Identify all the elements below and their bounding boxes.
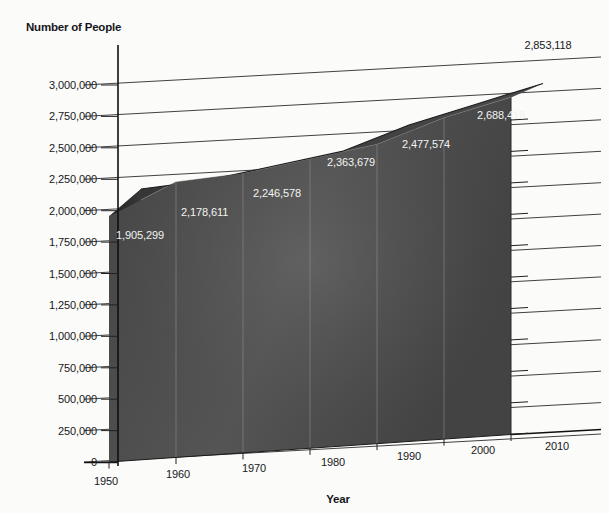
x-tick-label: 2000 [471, 444, 495, 456]
x-tick-label: 1970 [242, 462, 266, 474]
y-axis-title: Number of People [26, 21, 121, 33]
data-label-2010: 2,853,118 [524, 39, 571, 51]
chart-page: 0 250,000 500,000 750,000 1,000,000 1,25… [0, 0, 609, 513]
y-tick-label: 1,000,000 [49, 330, 97, 342]
y-tick-label: 1,500,000 [49, 268, 97, 280]
y-tick-label: 750,000 [58, 362, 97, 374]
y-tick-label: 3,000,000 [49, 79, 97, 91]
data-label-1950: 1,905,299 [116, 229, 164, 241]
area-chart-3d: 0 250,000 500,000 750,000 1,000,000 1,25… [0, 0, 609, 513]
data-label-1980: 2,363,679 [327, 156, 375, 168]
data-label-2000: 2,688,418 [477, 109, 525, 121]
y-axis-tick-labels: 0 250,000 500,000 750,000 1,000,000 1,25… [49, 79, 97, 468]
y-tick-label: 0 [91, 456, 97, 468]
y-tick-label: 2,500,000 [49, 142, 97, 154]
data-label-1960: 2,178,611 [181, 206, 228, 218]
y-tick-label: 2,250,000 [49, 173, 97, 185]
y-tick-label: 1,250,000 [49, 299, 97, 311]
x-tick-label: 1990 [397, 450, 421, 462]
y-tick-label: 500,000 [58, 393, 97, 405]
y-tick-label: 250,000 [58, 425, 97, 437]
y-tick-label: 2,000,000 [49, 205, 97, 217]
area-solid-3d [109, 84, 543, 463]
data-label-1990: 2,477,574 [402, 138, 450, 150]
y-tick-label: 2,750,000 [49, 110, 97, 122]
x-axis-title: Year [326, 493, 350, 505]
data-label-1970: 2,246,578 [253, 187, 301, 199]
x-tick-label: 2010 [545, 440, 569, 452]
x-tick-label: 1980 [321, 456, 345, 468]
x-tick-label: 1950 [94, 475, 118, 487]
y-tick-label: 1,750,000 [49, 236, 97, 248]
x-tick-label: 1960 [166, 468, 190, 480]
right-edge-tick-stubs [511, 119, 528, 434]
